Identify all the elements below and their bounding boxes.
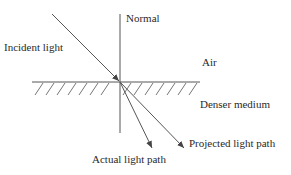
projected-light-path-label: Projected light path [189, 138, 275, 149]
incident-light-label: Incident light [4, 42, 63, 53]
surface-hatching [35, 83, 197, 95]
actual-light-path-label: Actual light path [92, 154, 166, 165]
air-label: Air [202, 57, 217, 68]
normal-label: Normal [126, 13, 160, 24]
refraction-diagram: Normal Incident light Air Denser medium … [0, 0, 291, 175]
denser-medium-label: Denser medium [200, 99, 270, 110]
projected-light-path [120, 82, 184, 148]
